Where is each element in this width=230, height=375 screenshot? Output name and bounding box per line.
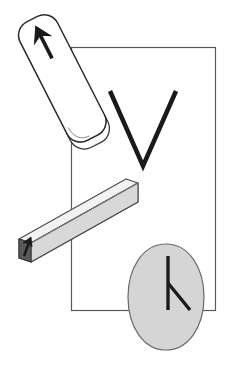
ellipse-body	[128, 244, 204, 350]
figure-root	[0, 0, 230, 375]
figure-caption	[0, 363, 230, 375]
rotating-ellipse-group	[128, 244, 204, 350]
figure-canvas	[0, 0, 230, 375]
